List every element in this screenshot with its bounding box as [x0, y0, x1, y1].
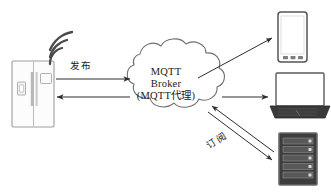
broker-label: MQTT Broker (MQTT代理): [120, 66, 212, 101]
diagram-canvas: MQTT Broker (MQTT代理) 发布 订阅: [0, 0, 331, 195]
arrow-subscribe: [212, 106, 274, 152]
broker-label-line2: Broker: [120, 78, 212, 90]
publish-label: 发布: [70, 61, 93, 72]
laptop-device: [270, 73, 330, 118]
broker-label-line1: MQTT: [120, 66, 212, 78]
server-rack-device: [279, 133, 317, 185]
wifi-signal-icon: [50, 32, 72, 64]
smartphone-device: [278, 12, 307, 62]
broker-label-line3: (MQTT代理): [120, 90, 212, 102]
refrigerator-device: [12, 61, 54, 127]
